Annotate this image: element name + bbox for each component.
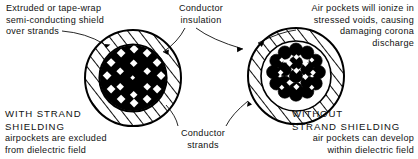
label-without-strand-shielding-desc: air pockets can develop within dielectri… (262, 133, 414, 156)
leader-insulation-right (196, 28, 243, 49)
label-shield: Extruded or tape-wrap semi-conducting sh… (6, 3, 138, 38)
label-with-strand-shielding-title: WITH STRAND SHIELDING (5, 108, 135, 133)
label-air-pockets: Air pockets will ionize in stressed void… (268, 3, 414, 49)
label-without-strand-shielding-title: WITHOUT STRAND SHIELDING (292, 108, 414, 133)
leader-strands-right (226, 101, 248, 126)
label-conductor-strands: Conductor strands (165, 128, 241, 151)
label-with-strand-shielding-desc: airpockets are excluded from dielectric … (5, 133, 145, 156)
label-conductor-insulation: Conductor insulation (160, 3, 242, 26)
leader-insulation-right-arrow (237, 47, 243, 53)
leader-strands-right-arrow (247, 101, 252, 107)
